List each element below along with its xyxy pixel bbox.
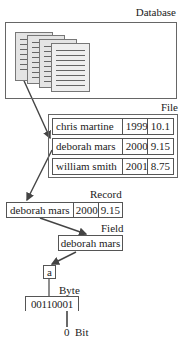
file-cell-name: william smith	[53, 159, 123, 174]
byte-label: Byte	[59, 284, 80, 296]
record-label: Record	[90, 188, 122, 200]
bit-value: 0	[64, 326, 70, 338]
file-row: chris martine 1999 10.1	[52, 118, 174, 135]
file-page-icon-4	[51, 43, 90, 92]
file-cell-year: 2000	[123, 139, 148, 154]
record-cell-score: 9.15	[99, 203, 122, 217]
file-cell-name: chris martine	[53, 119, 123, 134]
file-cell-year: 2001	[123, 159, 148, 174]
bit-label: Bit	[75, 326, 88, 338]
field-label: Field	[101, 222, 124, 234]
file-row: deborah mars 2000 9.15	[52, 138, 174, 155]
file-cell-score: 9.15	[148, 139, 173, 154]
byte-bits: 00110001	[26, 298, 78, 311]
record-cell-year: 2000	[74, 203, 99, 217]
database-label: Database	[136, 6, 176, 18]
record-cell-name: deborah mars	[7, 203, 74, 217]
file-cell-year: 1999	[123, 119, 148, 134]
file-row: william smith 2001 8.75	[52, 158, 174, 175]
record-row: deborah mars 2000 9.15	[6, 202, 123, 218]
field-box: deborah mars	[58, 235, 123, 251]
file-cell-score: 8.75	[148, 159, 173, 174]
file-table: chris martine 1999 10.1 deborah mars 200…	[48, 114, 178, 178]
file-cell-score: 10.1	[148, 119, 173, 134]
file-label: File	[161, 101, 178, 113]
byte-char-box: a	[43, 265, 56, 279]
file-cell-name: deborah mars	[53, 139, 123, 154]
